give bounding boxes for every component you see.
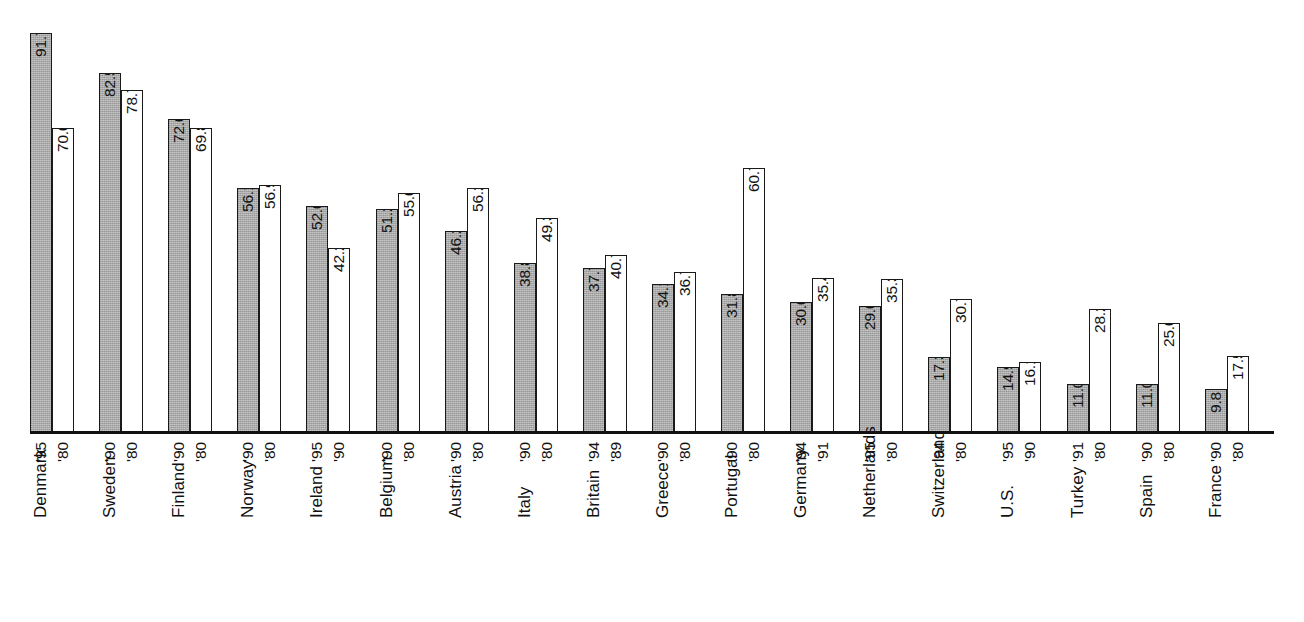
bar-earlier-year[interactable]: 16.1 xyxy=(1019,362,1041,432)
bar-value-label: 82.5 xyxy=(100,77,121,99)
bar-value-label: 30.0 xyxy=(791,306,812,328)
x-axis-baseline xyxy=(30,431,1274,434)
bar-earlier-year[interactable]: 35.4 xyxy=(812,278,834,432)
bar-value-label: 25.0 xyxy=(1159,327,1180,349)
year-label-earlier: '80 xyxy=(52,440,104,462)
year-label-earlier: '80 xyxy=(121,440,173,462)
bar-value-label: 70.0% xyxy=(53,132,74,154)
year-label-earlier: '80 xyxy=(1089,440,1141,462)
year-label-earlier: '80 xyxy=(881,440,933,462)
bar-recent-year[interactable]: 72.0 xyxy=(168,119,190,432)
bar-value-label: 35.4 xyxy=(813,282,834,304)
bar-earlier-year[interactable]: 78.7 xyxy=(121,90,143,432)
bar-value-label: 29.0 xyxy=(860,310,881,332)
bar-value-label: 16.1 xyxy=(1020,366,1041,388)
bar-value-label: 49.3 xyxy=(537,222,558,244)
bar-value-label: 69.8 xyxy=(191,132,212,154)
bar-value-label: 51.2 xyxy=(377,213,398,235)
bar-recent-year[interactable]: 30.0 xyxy=(790,302,812,432)
bar-value-label: 37.7 xyxy=(584,272,605,294)
bar-chart: 91.7%70.0%82.578.772.069.856.156.952.042… xyxy=(0,0,1304,622)
bar-recent-year[interactable]: 31.8 xyxy=(721,294,743,432)
year-label-earlier: '80 xyxy=(190,440,242,462)
bar-earlier-year[interactable]: 69.8 xyxy=(190,128,212,432)
year-label-earlier: '89 xyxy=(605,440,657,462)
bar-value-label: 42.2 xyxy=(329,252,350,274)
bar-recent-year[interactable]: 14.9 xyxy=(997,367,1019,432)
bar-recent-year[interactable]: 37.7 xyxy=(583,268,605,432)
bar-recent-year[interactable]: 51.2 xyxy=(376,209,398,432)
bar-value-label: 35.3 xyxy=(882,283,903,305)
country-label: France xyxy=(1205,496,1304,518)
bar-earlier-year[interactable]: 40.7 xyxy=(605,255,627,432)
bar-value-label: 31.8 xyxy=(722,298,743,320)
bar-earlier-year[interactable]: 56.9 xyxy=(259,185,281,432)
bar-earlier-year[interactable]: 56.2 xyxy=(467,188,489,432)
bar-value-label: 72.0 xyxy=(169,123,190,145)
bar-value-label: 40.7 xyxy=(606,259,627,281)
year-label-earlier: '80 xyxy=(1227,440,1279,462)
bar-earlier-year[interactable]: 30.7 xyxy=(950,299,972,433)
bar-value-label: 55.0 xyxy=(399,197,420,219)
bar-value-label: 17.5 xyxy=(1228,360,1249,382)
bar-value-label: 56.9 xyxy=(260,189,281,211)
bar-earlier-year[interactable]: 28.2 xyxy=(1089,309,1111,432)
bar-recent-year[interactable]: 91.7% xyxy=(30,33,52,432)
bar-earlier-year[interactable]: 36.7 xyxy=(674,272,696,432)
bar-earlier-year[interactable]: 60.7 xyxy=(743,168,765,432)
bar-value-label: 56.2 xyxy=(468,192,489,214)
bar-recent-year[interactable]: 46.2 xyxy=(445,231,467,432)
bar-earlier-year[interactable]: 17.5 xyxy=(1227,356,1249,432)
bar-recent-year[interactable]: 29.0 xyxy=(859,306,881,432)
bar-recent-year[interactable]: 56.1 xyxy=(237,188,259,432)
bar-value-label: 60.7 xyxy=(744,172,765,194)
bar-value-label: 38.8 xyxy=(515,267,536,289)
bar-earlier-year[interactable]: 35.3 xyxy=(881,279,903,433)
bar-value-label: 28.2 xyxy=(1090,313,1111,335)
year-label-earlier: '80 xyxy=(1158,440,1210,462)
bar-recent-year[interactable]: 52.0 xyxy=(306,206,328,432)
year-label-earlier: '80 xyxy=(743,440,795,462)
year-label-earlier: '80 xyxy=(398,440,450,462)
bar-value-label: 36.7 xyxy=(675,276,696,298)
bar-value-label: 34.1 xyxy=(653,288,674,310)
year-label-earlier: '90 xyxy=(1019,440,1071,462)
bar-value-label: 78.7 xyxy=(122,94,143,116)
bar-value-label: 9.8 xyxy=(1206,393,1227,415)
bar-earlier-year[interactable]: 25.0 xyxy=(1158,323,1180,432)
bar-value-label: 46.2 xyxy=(446,235,467,257)
year-label-earlier: '80 xyxy=(259,440,311,462)
bar-recent-year[interactable]: 82.5 xyxy=(99,73,121,432)
bar-earlier-year[interactable]: 49.3 xyxy=(536,218,558,432)
bar-earlier-year[interactable]: 55.0 xyxy=(398,193,420,432)
year-label-earlier: '90 xyxy=(328,440,380,462)
bar-value-label: 14.9 xyxy=(998,371,1019,393)
bar-earlier-year[interactable]: 70.0% xyxy=(52,128,74,432)
bar-recent-year[interactable]: 17.3 xyxy=(928,357,950,432)
bar-value-label: 56.1 xyxy=(238,192,259,214)
bar-value-label: 91.7% xyxy=(31,37,52,59)
year-label-earlier: '80 xyxy=(536,440,588,462)
bar-value-label: 30.7 xyxy=(951,303,972,325)
bar-value-label: 52.0 xyxy=(307,210,328,232)
bar-recent-year[interactable]: 34.1 xyxy=(652,284,674,432)
x-axis-labels: '95'80Denmark'90'80Sweden'90'80Finland'9… xyxy=(30,436,1274,618)
bar-recent-year[interactable]: 11.0 xyxy=(1136,384,1158,432)
bar-recent-year[interactable]: 38.8 xyxy=(514,263,536,432)
bar-recent-year[interactable]: 11.0 xyxy=(1067,384,1089,432)
year-label-earlier: '80 xyxy=(467,440,519,462)
bar-recent-year[interactable]: 9.8 xyxy=(1205,389,1227,432)
plot-area: 91.7%70.0%82.578.772.069.856.156.952.042… xyxy=(30,8,1274,432)
year-label-earlier: '80 xyxy=(950,440,1002,462)
bar-earlier-year[interactable]: 42.2 xyxy=(328,248,350,432)
bar-value-label: 17.3 xyxy=(929,361,950,383)
year-label-earlier: '80 xyxy=(674,440,726,462)
year-label-earlier: '91 xyxy=(812,440,864,462)
bar-value-label: 11.0 xyxy=(1137,388,1158,410)
bar-value-label: 11.0 xyxy=(1068,388,1089,410)
